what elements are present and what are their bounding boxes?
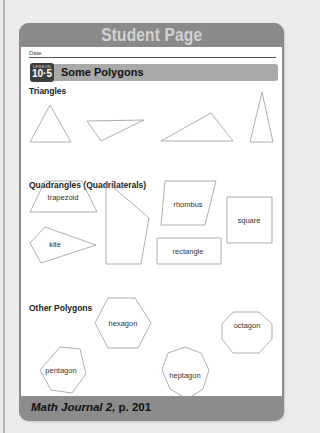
rectangle-label: rectangle — [173, 247, 204, 256]
rhombus-label: rhombus — [173, 200, 202, 209]
triangle-shape-1 — [30, 105, 71, 142]
square-label: square — [238, 216, 261, 225]
trapezoid-label: trapezoid — [48, 193, 79, 202]
quadrangle-shape — [106, 181, 149, 264]
octagon-label: octagon — [234, 321, 261, 330]
triangle-shape-2 — [87, 120, 144, 141]
kite-shape — [30, 227, 96, 263]
triangle-shape-4 — [250, 92, 273, 142]
triangle-shape-3 — [161, 113, 233, 141]
pentagon-label: pentagon — [45, 366, 76, 375]
octagon-shape — [222, 312, 272, 353]
heptagon-label: heptagon — [169, 371, 200, 380]
kite-label: kite — [49, 240, 61, 249]
hexagon-label: hexagon — [109, 319, 138, 328]
